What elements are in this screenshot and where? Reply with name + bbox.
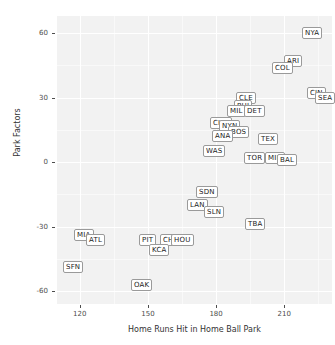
- data-point-label: WAS: [203, 145, 225, 157]
- data-point-label: OAK: [131, 279, 152, 291]
- y-tick-mark: [52, 227, 55, 228]
- x-tick-mark: [80, 305, 81, 308]
- x-tick-label: 120: [65, 310, 95, 318]
- data-point-label: ATL: [86, 234, 105, 246]
- gridline-vertical: [182, 16, 183, 304]
- data-point-label: SLN: [204, 206, 224, 218]
- data-point-label: DET: [244, 105, 265, 117]
- gridline-horizontal: [57, 291, 332, 292]
- x-tick-label: 150: [133, 310, 163, 318]
- gridline-horizontal: [57, 98, 332, 99]
- y-tick-mark: [52, 162, 55, 163]
- data-point-label: SDN: [196, 186, 218, 198]
- gridline-vertical: [148, 16, 149, 304]
- y-tick-label: 60: [6, 29, 48, 37]
- y-axis-title: Park Factors: [13, 88, 22, 178]
- gridline-vertical: [216, 16, 217, 304]
- x-tick-label: 210: [269, 310, 299, 318]
- x-tick-mark: [284, 305, 285, 308]
- data-point-label: MIL: [227, 105, 246, 117]
- gridline-horizontal: [57, 259, 332, 260]
- x-tick-mark: [216, 305, 217, 308]
- gridline-vertical: [114, 16, 115, 304]
- data-point-label: HOU: [171, 234, 194, 246]
- gridline-vertical: [318, 16, 319, 304]
- data-point-label: TBA: [245, 218, 265, 230]
- data-point-label: TOR: [244, 152, 265, 164]
- data-point-label: TEX: [258, 133, 278, 145]
- gridline-horizontal: [57, 130, 332, 131]
- x-tick-label: 180: [201, 310, 231, 318]
- y-tick-label: -60: [6, 287, 48, 295]
- y-tick-mark: [52, 98, 55, 99]
- data-point-label: ANA: [212, 130, 233, 142]
- gridline-horizontal: [57, 227, 332, 228]
- data-point-label: SEA: [315, 92, 335, 104]
- y-tick-mark: [52, 291, 55, 292]
- y-tick-mark: [52, 33, 55, 34]
- gridline-horizontal: [57, 194, 332, 195]
- y-tick-label: -30: [6, 223, 48, 231]
- data-point-label: COL: [272, 62, 293, 74]
- data-point-label: SFN: [63, 261, 83, 273]
- data-point-label: BAL: [277, 154, 297, 166]
- gridline-horizontal: [57, 33, 332, 34]
- x-axis-title: Home Runs Hit in Home Ball Park: [57, 325, 332, 334]
- data-point-label: KCA: [149, 244, 169, 256]
- x-tick-mark: [148, 305, 149, 308]
- data-point-label: NYA: [302, 27, 322, 39]
